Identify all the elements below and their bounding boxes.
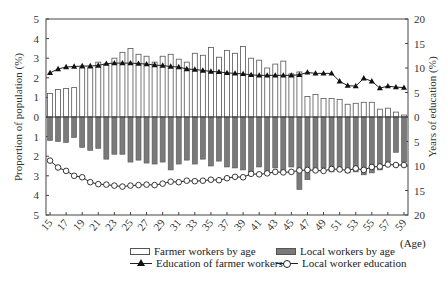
circle-marker-icon: [71, 173, 77, 179]
farmer-bar: [377, 109, 382, 117]
circle-marker-icon: [313, 168, 319, 174]
circle-marker-icon: [120, 184, 126, 190]
circle-marker-icon: [329, 166, 335, 172]
circle-marker-icon: [168, 179, 174, 185]
circle-marker-icon: [281, 170, 287, 176]
legend-item-farmer-bar: Farmer workers by age: [130, 245, 256, 257]
local-bar: [216, 117, 221, 161]
circle-marker-icon: [369, 164, 375, 170]
circle-marker-icon: [136, 182, 142, 188]
farmer-bar: [361, 102, 366, 117]
circle-marker-icon: [152, 182, 158, 188]
x-tick-label: 37: [215, 216, 232, 233]
y-tick-label-left: 1: [34, 131, 40, 143]
x-tick-label: 21: [87, 217, 103, 233]
y-axis-label-right: Years of education (%): [426, 56, 439, 158]
circle-marker-icon: [208, 177, 214, 183]
farmer-bar: [56, 90, 61, 117]
y-tick-label-right: 10: [414, 62, 426, 74]
circle-marker-icon: [305, 167, 311, 173]
local-bar: [200, 117, 205, 159]
circle-marker-icon: [160, 181, 166, 187]
farmer-bar: [321, 98, 326, 117]
x-tick-label: 49: [312, 216, 329, 233]
farmer-bar: [64, 89, 69, 117]
local-bar: [385, 117, 390, 162]
farmer-bar: [72, 88, 77, 117]
y-tick-label-left: 4: [34, 33, 40, 45]
x-tick-label: 57: [376, 216, 393, 233]
y-tick-label-left: 3: [34, 52, 40, 64]
farmer-bar: [233, 53, 238, 117]
x-tick-label: 39: [231, 216, 248, 233]
farmer-bar: [152, 62, 157, 117]
local-bar: [233, 117, 238, 168]
x-tick-label: 53: [344, 216, 361, 233]
farmer-bar: [225, 50, 230, 117]
circle-marker-icon: [128, 183, 134, 189]
local-bar: [48, 117, 53, 141]
x-tick-label: 43: [264, 216, 281, 233]
y-tick-label-left: 2: [34, 150, 40, 162]
local-bar: [136, 117, 141, 160]
y-tick-label-left: 5: [34, 13, 40, 25]
local-bar: [393, 117, 398, 152]
farmer-bar: [273, 64, 278, 117]
farmer-bar: [281, 61, 286, 117]
circle-marker-icon: [87, 179, 93, 185]
x-tick-label: 51: [328, 217, 344, 233]
triangle-marker-icon: [361, 75, 367, 80]
local-bar: [361, 117, 366, 175]
circle-marker-icon: [272, 169, 278, 175]
local-bar: [297, 117, 302, 190]
circle-marker-icon: [393, 162, 399, 168]
legend-label: Local workers by age: [300, 245, 395, 257]
legend-label: Education of farmer workers: [156, 257, 283, 269]
local-bar: [176, 117, 181, 164]
legend-item-local-bar: Local workers by age: [276, 245, 395, 257]
triangle-marker-icon: [345, 82, 351, 87]
local-bar: [353, 117, 358, 172]
x-tick-label: 35: [199, 216, 216, 233]
y-tick-label-right: 5: [414, 87, 420, 99]
farmer-bar: [305, 96, 310, 117]
y-tick-label-left: 0: [34, 111, 40, 123]
local-bar: [152, 117, 157, 164]
circle-marker-icon: [144, 182, 150, 188]
y-tick-label-right: 20: [414, 209, 426, 221]
circle-marker-icon: [176, 179, 182, 185]
x-tick-label: 47: [296, 216, 313, 233]
circle-marker-icon: [321, 168, 327, 174]
local-bar: [377, 117, 382, 170]
local-bar: [128, 117, 133, 162]
local-bar: [257, 117, 262, 167]
local-bar: [112, 117, 117, 154]
circle-marker-icon: [232, 174, 238, 180]
circle-marker-icon: [79, 174, 85, 180]
y-tick-label-left: 5: [34, 209, 40, 221]
farmer-bar: [96, 62, 101, 117]
legend-label: Local worker education: [302, 257, 406, 269]
local-bar: [144, 117, 149, 163]
circle-marker-icon: [216, 177, 222, 183]
farmer-bar: [257, 60, 262, 117]
farmer-bar: [369, 102, 374, 117]
chart: 5432101234520151050510152015171921232527…: [0, 0, 447, 284]
farmer-bar: [208, 47, 213, 117]
circle-marker-icon: [361, 167, 367, 173]
x-tick-label: 41: [247, 217, 263, 233]
circle-marker-icon: [200, 178, 206, 184]
farmer-bar: [104, 64, 109, 117]
local-bar: [289, 117, 294, 167]
farmer-bar: [353, 103, 358, 117]
local-bar: [345, 117, 350, 173]
local-bar: [184, 117, 189, 160]
local-bar: [72, 117, 77, 138]
local-bar: [401, 117, 406, 162]
local-bar: [96, 117, 101, 148]
legend-item-farmer-edu: Education of farmer workers: [130, 257, 283, 269]
x-tick-label: 19: [70, 216, 87, 233]
circle-marker-icon: [401, 162, 407, 168]
local-bar: [80, 117, 85, 147]
circle-marker-icon: [104, 182, 110, 188]
